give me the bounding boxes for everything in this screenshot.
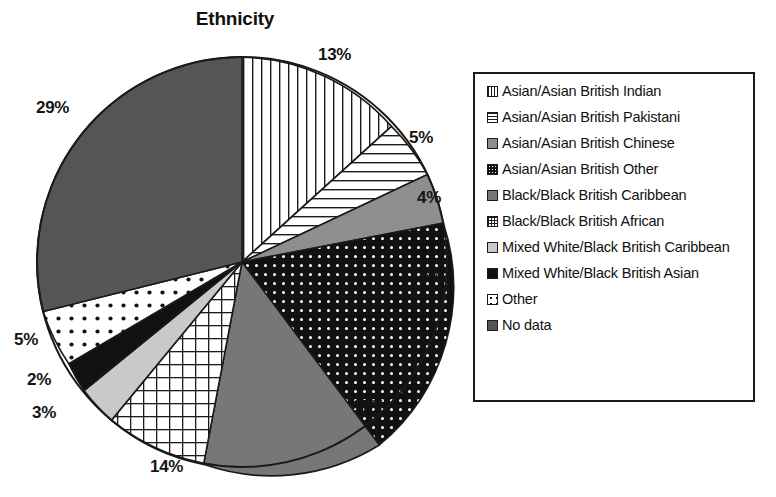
- legend-item-black-african[interactable]: Black/Black British African: [487, 212, 749, 232]
- legend-swatch-grid-icon: [487, 216, 498, 227]
- legend-swatch-light-gray-icon: [487, 242, 498, 253]
- pie-graphic: [0, 0, 470, 497]
- legend-swatch-medium-gray-icon: [487, 138, 498, 149]
- slice-label-14: 14%: [150, 457, 183, 477]
- legend-label: Asian/Asian British Pakistani: [502, 108, 680, 126]
- slice-label-17: 17%: [352, 397, 385, 417]
- slice-label-3: 3%: [32, 403, 56, 423]
- slice-label-5-other: 5%: [14, 330, 38, 350]
- legend-label: Other: [502, 290, 537, 308]
- legend-swatch-dark-gray-icon: [487, 320, 498, 331]
- legend-label: Asian/Asian British Other: [502, 160, 658, 178]
- slice-label-29: 29%: [36, 98, 69, 118]
- legend-label: Black/Black British Caribbean: [502, 186, 686, 204]
- legend-item-asian-indian[interactable]: Asian/Asian British Indian: [487, 82, 749, 102]
- legend-swatch-vertical-lines-icon: [487, 86, 498, 97]
- legend-swatch-white-dots-icon: [487, 294, 498, 305]
- legend: Asian/Asian British Indian Asian/Asian B…: [473, 72, 755, 402]
- legend-item-asian-other[interactable]: Asian/Asian British Other: [487, 160, 749, 180]
- slice-label-2: 2%: [27, 370, 51, 390]
- legend-label: Black/Black British African: [502, 212, 664, 230]
- slice-label-5-pakistani: 5%: [409, 128, 433, 148]
- legend-list: Asian/Asian British Indian Asian/Asian B…: [487, 82, 749, 342]
- legend-label: Mixed White/Black British Caribbean: [502, 238, 730, 256]
- legend-item-mixed-asian[interactable]: Mixed White/Black British Asian: [487, 264, 749, 284]
- legend-swatch-medium-gray-2-icon: [487, 190, 498, 201]
- legend-swatch-black-icon: [487, 268, 498, 279]
- legend-item-black-caribbean[interactable]: Black/Black British Caribbean: [487, 186, 749, 206]
- pie-chart: Ethnicity: [0, 0, 776, 497]
- legend-label: Asian/Asian British Chinese: [502, 134, 675, 152]
- legend-label: Asian/Asian British Indian: [502, 82, 661, 100]
- legend-item-no-data[interactable]: No data: [487, 316, 749, 336]
- slice-label-8: 8%: [420, 265, 444, 285]
- pie-slices: [37, 57, 454, 476]
- slice-label-4: 4%: [417, 188, 441, 208]
- legend-label: No data: [502, 316, 551, 334]
- slice-label-13: 13%: [318, 45, 351, 65]
- legend-label: Mixed White/Black British Asian: [502, 264, 699, 282]
- legend-item-other[interactable]: Other: [487, 290, 749, 310]
- legend-item-mixed-caribbean[interactable]: Mixed White/Black British Caribbean: [487, 238, 749, 258]
- legend-swatch-black-dots-icon: [487, 164, 498, 175]
- legend-swatch-horizontal-lines-icon: [487, 112, 498, 123]
- legend-item-asian-pakistani[interactable]: Asian/Asian British Pakistani: [487, 108, 749, 128]
- legend-item-asian-chinese[interactable]: Asian/Asian British Chinese: [487, 134, 749, 154]
